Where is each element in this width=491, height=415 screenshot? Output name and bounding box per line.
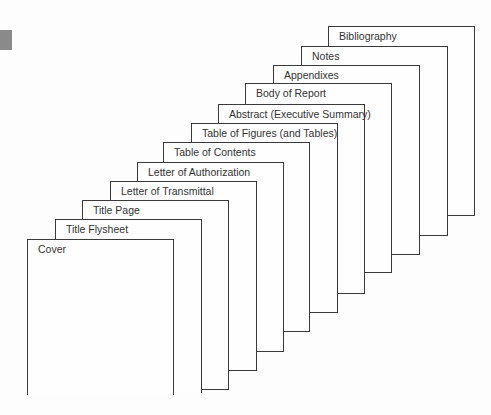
page-label: Appendixes — [284, 69, 339, 81]
section-marker — [0, 30, 12, 50]
page-label: Letter of Authorization — [148, 166, 250, 178]
page-label: Title Flysheet — [66, 223, 128, 235]
page-label: Letter of Transmittal — [121, 185, 214, 197]
page-cover: Cover — [27, 239, 174, 395]
page-label: Body of Report — [256, 87, 326, 99]
page-label: Title Page — [93, 204, 140, 216]
page-label: Abstract (Executive Summary) — [229, 108, 371, 120]
page-label: Bibliography — [339, 30, 397, 42]
page-label: Table of Contents — [174, 146, 256, 158]
page-label: Cover — [38, 243, 66, 255]
page-label: Table of Figures (and Tables) — [202, 127, 337, 139]
page-label: Notes — [312, 50, 339, 62]
